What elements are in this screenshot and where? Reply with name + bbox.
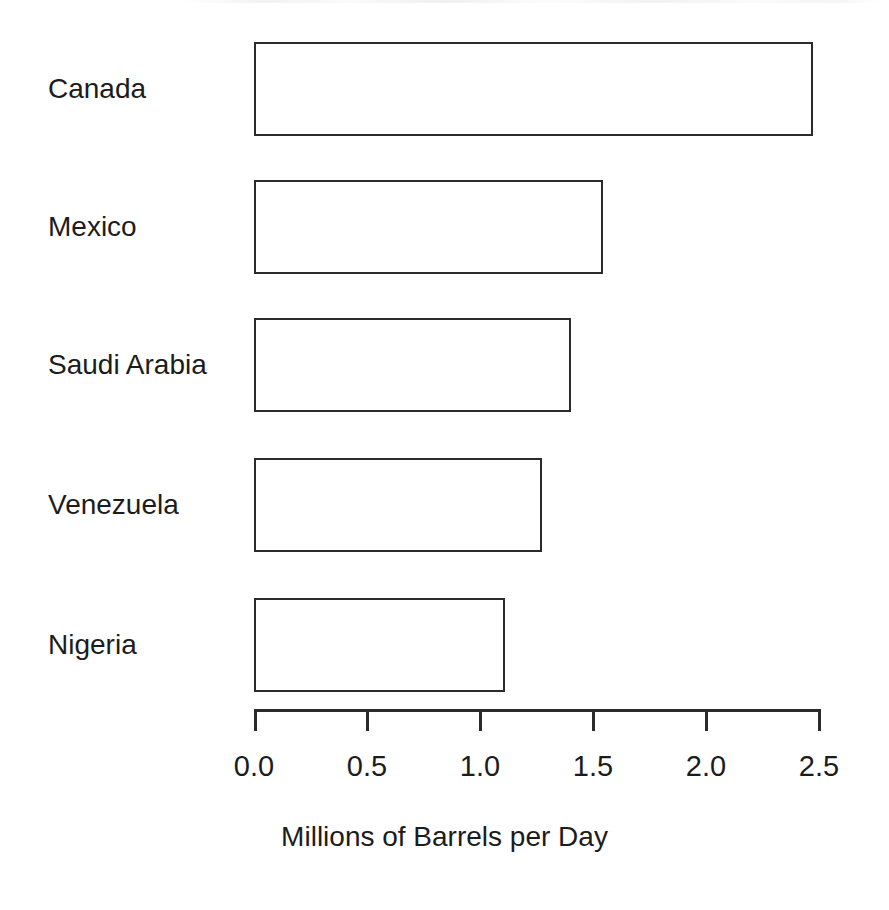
category-label-canada: Canada bbox=[48, 75, 248, 103]
bar-saudi-arabia bbox=[254, 318, 571, 412]
scan-artifact bbox=[180, 0, 880, 3]
x-tick-label-2-5: 2.5 bbox=[759, 752, 879, 781]
x-axis-endcap-right bbox=[818, 709, 821, 731]
bar-nigeria bbox=[254, 598, 505, 692]
x-axis-tick-1-0 bbox=[479, 709, 482, 731]
x-tick-label-2-0: 2.0 bbox=[646, 752, 766, 781]
x-tick-label-1-0: 1.0 bbox=[420, 752, 540, 781]
x-axis-title: Millions of Barrels per Day bbox=[0, 822, 889, 852]
bar-mexico bbox=[254, 180, 603, 274]
category-label-nigeria: Nigeria bbox=[48, 631, 248, 659]
category-label-mexico: Mexico bbox=[48, 213, 248, 241]
x-axis-endcap-left bbox=[254, 709, 257, 731]
x-tick-label-0-5: 0.5 bbox=[307, 752, 427, 781]
category-label-venezuela: Venezuela bbox=[48, 491, 248, 519]
bar-venezuela bbox=[254, 458, 542, 552]
bar-canada bbox=[254, 42, 813, 136]
x-axis-tick-1-5 bbox=[592, 709, 595, 731]
x-axis-tick-0-5 bbox=[366, 709, 369, 731]
x-tick-label-0-0: 0.0 bbox=[194, 752, 314, 781]
category-label-saudi-arabia: Saudi Arabia bbox=[48, 351, 248, 379]
bar-chart: Canada Mexico Saudi Arabia Venezuela Nig… bbox=[0, 0, 889, 910]
x-axis-tick-2-0 bbox=[705, 709, 708, 731]
x-tick-label-1-5: 1.5 bbox=[533, 752, 653, 781]
x-axis-line bbox=[254, 709, 821, 712]
